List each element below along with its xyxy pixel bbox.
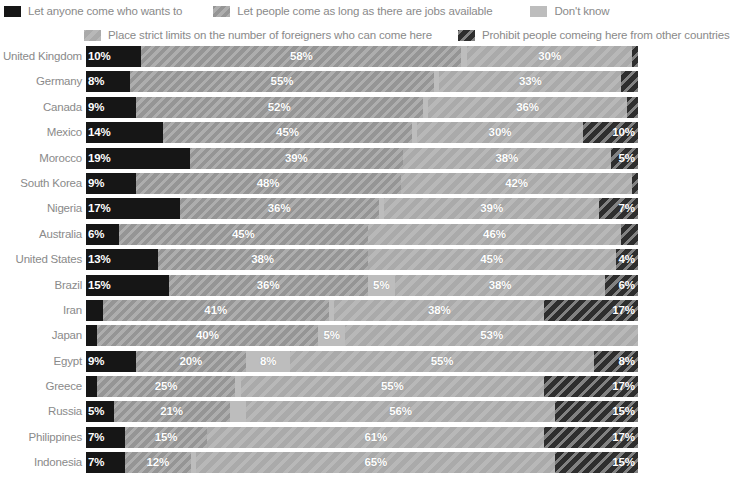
bar-segment-value: 52% [268,97,291,118]
bar-segment-jobs: 21% [114,401,230,422]
bar-row: Australia6%45%46% [0,224,638,249]
bar-segment-limits: 65% [196,452,555,473]
bar-track: 17%36%39%7% [86,198,638,219]
bar-segment-value: 56% [389,401,412,422]
bar-segment-value: 38% [489,275,512,296]
bar-segment-jobs: 25% [97,376,235,397]
bar-segment-anyone [86,325,97,346]
bar-segment-limits: 38% [403,148,611,169]
category-label: Canada [0,97,86,118]
bar-segment-jobs: 45% [119,224,367,245]
bar-track: 9%48%42% [86,173,638,194]
bar-segment-jobs: 36% [169,275,368,296]
bar-segment-anyone [86,376,97,397]
bar-segment-value: 55% [271,71,294,92]
bar-row: Canada9%52%36% [0,97,638,122]
category-label: Mexico [0,122,86,143]
bar-segment-value: 8% [88,71,104,92]
bar-segment-value: 6% [88,224,104,245]
bar-row: Brazil15%36%5%38%6% [0,275,638,300]
bar-segment-value: 39% [480,198,503,219]
bar-segment-value: 21% [160,401,183,422]
bar-segment-value: 8% [260,351,276,372]
legend-label-anyone: Let anyone come who wants to [28,5,182,18]
bar-segment-jobs: 52% [136,97,423,118]
category-label: Morocco [0,148,86,169]
bar-segment-value: 30% [489,122,512,143]
bar-segment-prohibit: 6% [605,275,638,296]
legend-row-bottom: Place strict limits on the number of for… [0,25,722,45]
bar-segment-anyone: 7% [86,427,125,448]
bar-track: 15%36%5%38%6% [86,275,638,296]
legend-row-top: Let anyone come who wants to Let people … [0,1,642,21]
legend-swatch-dontknow-icon [530,6,547,17]
bar-segment-jobs: 12% [125,452,191,473]
bar-segment-limits: 38% [334,300,544,321]
bar-segment-limits: 45% [368,249,616,270]
bar-segment-value: 45% [480,249,503,270]
bar-segment-value: 9% [88,173,104,194]
category-label: Egypt [0,351,86,372]
bar-segment-prohibit: 17% [544,427,638,448]
bar-row: Nigeria17%36%39%7% [0,198,638,223]
bar-segment-value: 15% [155,427,178,448]
bar-segment-anyone [86,300,103,321]
bar-row: Iran41%38%17% [0,300,638,325]
bar-segment-prohibit [632,46,638,67]
bar-segment-anyone: 17% [86,198,180,219]
bar-segment-value: 39% [285,148,308,169]
bar-segment-anyone: 19% [86,148,190,169]
bar-segment-value: 17% [612,427,635,448]
bar-segment-dontknow [230,401,247,422]
bar-track: 14%45%30%10% [86,122,638,143]
bar-segment-value: 4% [619,249,635,270]
bar-segment-limits: 56% [246,401,555,422]
bar-segment-value: 38% [428,300,451,321]
bar-track: 7%15%61%17% [86,427,638,448]
bar-segment-value: 33% [519,71,542,92]
bar-segment-prohibit: 10% [583,122,638,143]
bar-segment-jobs: 41% [103,300,329,321]
chart-plot-area: United Kingdom10%58%30%Germany8%55%33%Ca… [0,46,638,479]
bar-segment-value: 25% [155,376,178,397]
bar-segment-value: 45% [232,224,255,245]
bar-segment-limits: 38% [395,275,605,296]
category-label: Nigeria [0,198,86,219]
bar-segment-limits: 36% [428,97,627,118]
bar-row: South Korea9%48%42% [0,173,638,198]
category-label: Brazil [0,275,86,296]
bar-segment-value: 30% [538,46,561,67]
bar-segment-anyone: 6% [86,224,119,245]
legend-item-anyone: Let anyone come who wants to [4,5,182,18]
bar-segment-jobs: 48% [136,173,401,194]
bar-segment-anyone: 8% [86,71,130,92]
legend-item-limits: Place strict limits on the number of for… [84,29,432,42]
category-label: United Kingdom [0,46,86,67]
bar-segment-prohibit: 17% [544,376,638,397]
bar-track: 5%21%56%15% [86,401,638,422]
bar-segment-value: 5% [323,325,339,346]
bar-track: 7%12%65%15% [86,452,638,473]
bar-segment-anyone: 9% [86,97,136,118]
bar-segment-value: 17% [612,300,635,321]
bar-segment-anyone: 7% [86,452,125,473]
legend-label-jobs: Let people come as long as there are job… [237,5,492,18]
bar-row: Russia5%21%56%15% [0,401,638,426]
bar-segment-prohibit: 15% [555,452,638,473]
bar-track: 8%55%33% [86,71,638,92]
legend-swatch-anyone-icon [4,6,21,17]
bar-segment-prohibit [621,224,638,245]
bar-segment-prohibit: 7% [599,198,638,219]
bar-segment-value: 19% [88,148,111,169]
bar-segment-jobs: 36% [180,198,379,219]
bar-segment-anyone: 15% [86,275,169,296]
bar-row: Germany8%55%33% [0,71,638,96]
bar-segment-limits: 30% [467,46,633,67]
category-label: Iran [0,300,86,321]
bar-segment-value: 61% [364,427,387,448]
bar-track: 9%20%8%55%8% [86,351,638,372]
bar-segment-anyone: 10% [86,46,141,67]
bar-segment-jobs: 45% [163,122,411,143]
bar-segment-prohibit [627,97,638,118]
